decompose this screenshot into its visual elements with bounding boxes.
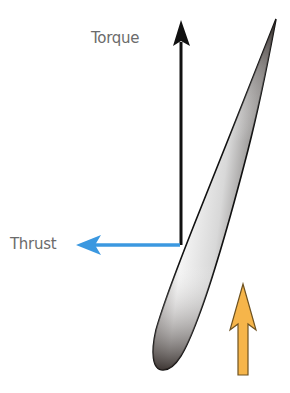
airflow-arrow [230,284,256,375]
torque-arrow [173,20,190,245]
torque-label: Torque [91,29,139,47]
propeller-force-diagram [0,0,290,393]
thrust-arrow [76,235,180,255]
thrust-label: Thrust [10,235,56,253]
blade-cross-section [153,19,276,370]
